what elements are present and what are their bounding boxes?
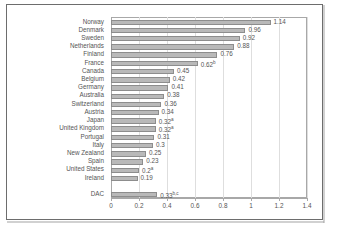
category-label: Austria: [84, 108, 104, 116]
bar-rows: Norway1.14Denmark0.96Sweden0.92Netherlan…: [105, 17, 308, 198]
category-label: Spain: [88, 157, 104, 165]
bar: [111, 69, 174, 74]
category-label: DAC: [91, 190, 104, 198]
bar-row: Canada0.45: [105, 68, 308, 76]
bar-row: Norway1.14: [105, 19, 308, 27]
category-label: Netherlands: [70, 42, 104, 50]
bar-row: Spain0.23: [105, 158, 308, 166]
bar-value-label: 1.14: [274, 18, 286, 26]
bar-row: Germany0.41: [105, 84, 308, 92]
category-label: Sweden: [81, 34, 104, 42]
category-label: Canada: [82, 67, 104, 75]
chart-frame: Norway1.14Denmark0.96Sweden0.92Netherlan…: [6, 4, 323, 220]
x-axis-tick: [279, 198, 280, 201]
x-axis-tick: [223, 198, 224, 201]
category-label: Denmark: [78, 26, 104, 34]
x-axis-tick-label: 1.4: [303, 202, 312, 209]
bar: [111, 52, 217, 57]
bar-value-label: 0.34: [162, 108, 174, 116]
footnote-marker: a: [171, 125, 174, 130]
category-label: Switzerland: [71, 100, 104, 108]
x-axis-tick-label: 0.8: [219, 202, 228, 209]
bar-value-label: 0.88: [237, 42, 249, 50]
bar: [111, 135, 154, 140]
x-axis-tick-label: 0.6: [191, 202, 200, 209]
category-label: Germany: [78, 83, 104, 91]
bar-chart: Norway1.14Denmark0.96Sweden0.92Netherlan…: [105, 17, 308, 199]
bar: [111, 102, 161, 107]
category-label: Australia: [80, 91, 105, 99]
bar-value-label: 0.25: [149, 149, 161, 157]
bar-value-label: 0.38: [167, 91, 179, 99]
bar-value-label: 0.36: [164, 100, 176, 108]
x-axis-tick-labels: 00.20.40.60.811.21.4: [111, 198, 308, 212]
category-label: Belgium: [81, 75, 104, 83]
category-label: Norway: [83, 18, 104, 26]
bar: [111, 44, 234, 49]
bar-value-label: 0.92: [243, 34, 255, 42]
x-axis-tick: [167, 198, 168, 201]
bar: [111, 143, 153, 148]
footnote-marker: b,c: [172, 191, 178, 196]
bar: [111, 28, 245, 33]
bar: [111, 110, 159, 115]
bar: [111, 94, 164, 99]
bar-value-label: 0.19: [141, 174, 153, 182]
bar-value-label: 0.96: [248, 26, 260, 34]
x-axis-tick-label: 1: [249, 202, 253, 209]
bar-value-label: 0.31: [157, 133, 169, 141]
category-label: Portugal: [81, 133, 104, 141]
bar-value-label: 0.41: [171, 83, 183, 91]
bar: [111, 159, 143, 164]
bar-value-label: 0.76: [220, 50, 232, 58]
bar: [111, 151, 146, 156]
bar: [111, 77, 170, 82]
frame-shadow-right: [323, 5, 325, 223]
bar-row: New Zealand0.25: [105, 150, 308, 158]
bar-row: Italy0.3: [105, 142, 308, 150]
category-label: United Kingdom: [59, 124, 104, 132]
bar-row: United Kingdom0.32a: [105, 125, 308, 133]
bar: [111, 176, 138, 181]
category-label: United States: [66, 165, 104, 173]
x-axis-tick-label: 0: [109, 202, 113, 209]
bar-row: Portugal0.31: [105, 134, 308, 142]
bar-row: Belgium0.42: [105, 76, 308, 84]
bar: [111, 126, 156, 131]
frame-shadow-bottom: [7, 221, 324, 223]
bar: [111, 118, 156, 123]
bar-row: Netherlands0.88: [105, 43, 308, 51]
x-axis-tick: [251, 198, 252, 201]
bar-value-label: 0.3: [156, 141, 165, 149]
x-axis-tick: [195, 198, 196, 201]
x-axis-tick: [307, 198, 308, 201]
bar: [111, 36, 240, 41]
bar: [111, 192, 157, 197]
bar-row: Japan0.32a: [105, 117, 308, 125]
bar-row: France0.62b: [105, 60, 308, 68]
footnote-marker: a: [171, 117, 174, 122]
bar-row: Switzerland0.36: [105, 101, 308, 109]
bar-row: Ireland0.19: [105, 175, 308, 183]
x-axis-tick-label: 0.4: [163, 202, 172, 209]
category-label: France: [84, 59, 104, 67]
footnote-marker: a: [151, 166, 154, 171]
category-label: Finland: [83, 50, 104, 58]
x-axis-tick: [139, 198, 140, 201]
bar: [111, 168, 139, 173]
bar-row: Denmark0.96: [105, 27, 308, 35]
footnote-marker: b: [213, 60, 216, 65]
bar: [111, 20, 271, 25]
x-axis-tick-label: 1.2: [275, 202, 284, 209]
bar-row: Austria0.34: [105, 109, 308, 117]
bar-value-label: 0.23: [146, 157, 158, 165]
x-axis-tick: [111, 198, 112, 201]
category-label: Italy: [92, 141, 104, 149]
bar-row: Australia0.38: [105, 92, 308, 100]
bar: [111, 61, 198, 66]
category-label: Ireland: [85, 174, 104, 182]
bar: [111, 85, 168, 90]
bar-value-label: 0.42: [173, 75, 185, 83]
bar-value-label: 0.45: [177, 67, 189, 75]
category-label: New Zealand: [67, 149, 104, 157]
